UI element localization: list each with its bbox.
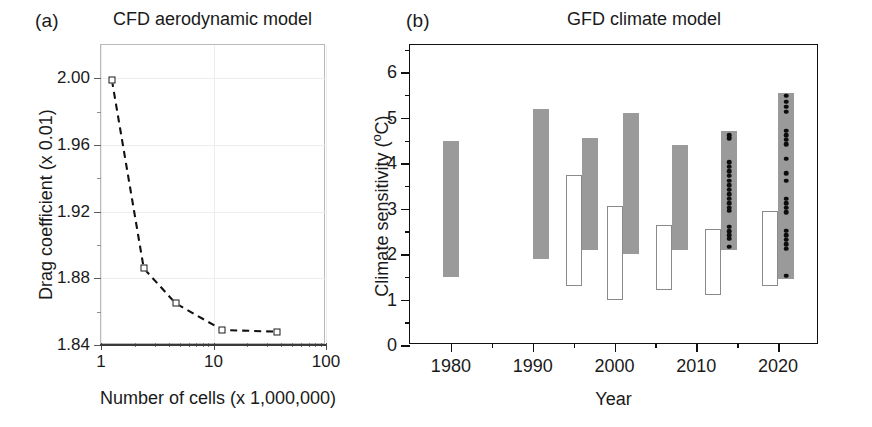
panel-b-y-tick-label: 6 bbox=[387, 62, 397, 83]
panel-b-data-dot bbox=[784, 100, 789, 105]
panel-a-data-point bbox=[274, 328, 281, 335]
panel-b-title: GFD climate model bbox=[426, 9, 862, 30]
panel-a-x-tick-label: 100 bbox=[312, 352, 340, 372]
panel-b-data-dot bbox=[727, 245, 732, 250]
panel-a-y-tick bbox=[94, 78, 101, 79]
panel-a-x-tick-label: 10 bbox=[204, 352, 223, 372]
panel-b-x-tick-label: 2010 bbox=[676, 356, 716, 377]
panel-b-data-dot bbox=[784, 110, 789, 115]
panel-a-gridline-v bbox=[326, 45, 327, 345]
panel-b-bar bbox=[623, 113, 639, 254]
panel-b-data-dot bbox=[784, 105, 789, 110]
panel-b-bar bbox=[656, 225, 672, 291]
panel-b-y-tick bbox=[401, 72, 410, 74]
panel-b-plot-area: 0123456 19801990200020102020 bbox=[409, 44, 818, 344]
panel-a-data-line bbox=[101, 45, 326, 345]
panel-b-bar bbox=[705, 229, 721, 295]
panel-b-y-tick-label: 2 bbox=[387, 244, 397, 265]
panel-a-y-tick-label: 1.92 bbox=[57, 202, 90, 222]
panel-b-y-tick-label: 3 bbox=[387, 198, 397, 219]
panel-b-x-tick-label: 2020 bbox=[758, 356, 798, 377]
panel-b-x-tick-label: 1990 bbox=[513, 356, 553, 377]
panel-b-data-dot bbox=[784, 94, 789, 99]
panel-a-x-tick bbox=[326, 343, 327, 350]
panel-b-gfd-climate-model: (b) GFD climate model Climate sensitivit… bbox=[436, 0, 872, 427]
panel-b-y-tick bbox=[401, 163, 410, 165]
panel-b-y-tick-minor bbox=[405, 277, 410, 278]
panel-a-y-tick bbox=[94, 278, 101, 279]
panel-a-x-tick-label: 1 bbox=[96, 352, 105, 372]
panel-b-y-tick-minor bbox=[405, 50, 410, 51]
panel-b-y-tick-label: 5 bbox=[387, 107, 397, 128]
panel-b-x-tick bbox=[778, 343, 780, 352]
panel-b-data-dot bbox=[784, 178, 789, 183]
panel-b-y-tick-minor bbox=[405, 95, 410, 96]
panel-a-data-point bbox=[172, 300, 179, 307]
panel-b-y-tick bbox=[401, 345, 410, 347]
panel-b-x-axis-title: Year bbox=[409, 389, 818, 410]
panel-b-x-tick-label: 2000 bbox=[594, 356, 634, 377]
panel-b-data-dot bbox=[727, 209, 732, 214]
panel-b-bar bbox=[566, 175, 582, 286]
panel-b-bar bbox=[607, 206, 623, 299]
panel-b-y-tick-minor bbox=[405, 186, 410, 187]
panel-b-x-tick bbox=[615, 343, 617, 352]
panel-b-data-dot bbox=[784, 246, 789, 251]
panel-b-y-tick bbox=[401, 209, 410, 211]
panel-b-x-tick bbox=[533, 343, 535, 352]
panel-b-bar bbox=[778, 93, 794, 279]
panel-b-data-dot bbox=[727, 136, 732, 141]
panel-b-y-tick bbox=[401, 118, 410, 120]
panel-a-data-point bbox=[140, 265, 147, 272]
panel-b-y-tick bbox=[401, 300, 410, 302]
panel-b-x-tick-minor bbox=[737, 343, 739, 348]
panel-a-y-tick bbox=[94, 212, 101, 213]
panel-a-plot-area: 1.841.881.921.962.00 110100 bbox=[100, 44, 325, 344]
panel-a-letter: (a) bbox=[35, 10, 59, 32]
panel-a-y-axis-title: Drag coefficient (x 0.01) bbox=[36, 55, 57, 355]
panel-a-x-axis-title: Number of cells (x 1,000,000) bbox=[0, 388, 436, 409]
panel-a-y-tick bbox=[94, 145, 101, 146]
panel-b-x-tick-minor bbox=[492, 343, 494, 348]
panel-b-data-dot bbox=[784, 210, 789, 215]
panel-b-bar bbox=[533, 109, 549, 259]
panel-b-y-tick bbox=[401, 254, 410, 256]
panel-b-x-tick-minor bbox=[655, 343, 657, 348]
panel-b-data-dot bbox=[784, 274, 789, 279]
panel-b-degree-superscript: o bbox=[369, 134, 384, 141]
panel-b-y-tick-minor bbox=[405, 141, 410, 142]
panel-b-x-tick-label: 1980 bbox=[431, 356, 471, 377]
panel-b-data-dot bbox=[784, 142, 789, 147]
panel-b-bar bbox=[582, 138, 598, 249]
panel-b-data-dot bbox=[727, 236, 732, 241]
panel-b-y-tick-minor bbox=[405, 231, 410, 232]
panel-b-data-dot bbox=[784, 171, 789, 176]
panel-a-y-tick-label: 1.84 bbox=[57, 335, 90, 355]
panel-a-title: CFD aerodynamic model bbox=[95, 9, 330, 30]
figure-canvas: (a) CFD aerodynamic model Drag coefficie… bbox=[0, 0, 872, 427]
panel-b-x-tick-minor bbox=[574, 343, 576, 348]
panel-b-x-tick bbox=[696, 343, 698, 352]
panel-b-bar bbox=[672, 145, 688, 250]
panel-b-y-tick-minor bbox=[405, 322, 410, 323]
panel-a-y-tick-label: 1.88 bbox=[57, 268, 90, 288]
panel-a-y-tick-label: 2.00 bbox=[57, 68, 90, 88]
panel-a-y-tick-label: 1.96 bbox=[57, 135, 90, 155]
panel-a-data-point bbox=[108, 77, 115, 84]
panel-b-bar bbox=[443, 141, 459, 277]
panel-b-y-tick-label: 0 bbox=[387, 335, 397, 356]
panel-b-data-dot bbox=[784, 156, 789, 161]
panel-b-x-tick bbox=[451, 343, 453, 352]
panel-b-y-tick-label: 1 bbox=[387, 289, 397, 310]
panel-b-y-tick-label: 4 bbox=[387, 153, 397, 174]
panel-a-x-axis-line bbox=[100, 344, 326, 346]
panel-b-bar bbox=[762, 211, 778, 286]
panel-a-data-point bbox=[219, 327, 226, 334]
